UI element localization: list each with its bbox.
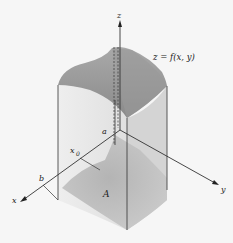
double-integral-volume-diagram: z z = f(x, y) a x 0 b x y A: [0, 0, 233, 243]
z-axis-label: z: [116, 11, 122, 20]
b-section-line: [43, 185, 58, 200]
y-axis-label: y: [220, 185, 226, 194]
z-axis-arrow-icon: [118, 20, 122, 27]
x-axis-arrow-icon: [20, 196, 27, 202]
surface-label: z = f(x, y): [152, 52, 195, 62]
y-axis-arrow-icon: [212, 180, 219, 185]
point-b-label: b: [39, 174, 44, 183]
point-x0-label: x: [70, 146, 75, 155]
region-A-label: A: [102, 189, 110, 199]
point-x0-subscript: 0: [76, 150, 80, 157]
point-a-label: a: [102, 127, 107, 136]
x-axis-label: x: [12, 196, 17, 205]
